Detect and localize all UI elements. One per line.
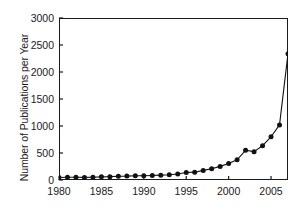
- data-point-marker: [124, 174, 129, 179]
- data-point-marker: [286, 51, 289, 56]
- data-point-marker: [73, 175, 78, 180]
- data-point-marker: [243, 148, 248, 153]
- y-tick-label: 1500: [22, 94, 54, 104]
- data-point-marker: [90, 175, 95, 180]
- x-tick-label: 1980: [47, 186, 70, 197]
- y-tick-label: 500: [22, 148, 54, 158]
- data-series-layer: [59, 18, 288, 180]
- data-point-marker: [209, 166, 214, 171]
- data-point-marker: [158, 173, 163, 178]
- x-tick-label: 1990: [132, 186, 155, 197]
- publications-per-year-chart: Number of Publications per Year 05001000…: [0, 0, 305, 215]
- data-point-marker: [175, 171, 180, 176]
- y-tick-label: 0: [22, 175, 54, 185]
- x-tick-label: 2005: [259, 186, 282, 197]
- data-point-marker: [192, 170, 197, 175]
- x-tick-label: 1985: [90, 186, 113, 197]
- data-point-marker: [82, 175, 87, 180]
- data-point-marker: [252, 149, 257, 154]
- x-tick-label: 1995: [175, 186, 198, 197]
- y-tick-label: 2500: [22, 40, 54, 50]
- data-point-marker: [226, 161, 231, 166]
- data-point-marker: [260, 143, 265, 148]
- data-point-marker: [133, 173, 138, 178]
- data-point-marker: [167, 172, 172, 177]
- data-point-marker: [99, 174, 104, 179]
- data-point-marker: [59, 175, 62, 180]
- y-tick-label: 3000: [22, 13, 54, 23]
- data-point-marker: [269, 134, 274, 139]
- x-tick-label: 2000: [217, 186, 240, 197]
- data-point-marker: [201, 168, 206, 173]
- data-point-marker: [116, 174, 121, 179]
- y-axis-tick-labels: 050010001500200025003000: [22, 0, 54, 215]
- data-point-marker: [107, 174, 112, 179]
- data-point-marker: [235, 157, 240, 162]
- data-point-marker: [65, 175, 70, 180]
- x-axis-tick-labels: 198019851990199520002005: [0, 186, 305, 200]
- data-point-marker: [277, 122, 282, 127]
- series-line: [59, 39, 288, 178]
- data-point-marker: [184, 170, 189, 175]
- data-point-marker: [218, 164, 223, 169]
- y-tick-label: 1000: [22, 121, 54, 131]
- data-point-marker: [150, 173, 155, 178]
- y-tick-label: 2000: [22, 67, 54, 77]
- data-point-marker: [141, 173, 146, 178]
